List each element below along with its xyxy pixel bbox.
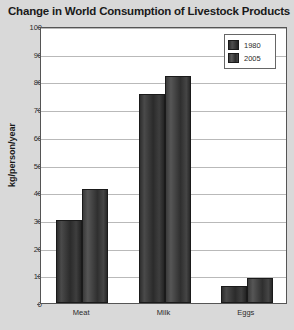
bar-chart: Change in World Consumption of Livestock…: [0, 0, 294, 330]
legend-item-1980: 1980: [228, 39, 272, 51]
bar-milk-1980: [139, 94, 165, 303]
legend-label-2005: 2005: [244, 54, 261, 63]
bar-eggs-2005: [247, 278, 273, 303]
legend-swatch-2005: [228, 53, 239, 63]
x-tick-label-eggs: Eggs: [237, 308, 254, 317]
y-tick-mark: [37, 304, 40, 305]
gridline: [41, 28, 286, 29]
bar-eggs-1980: [221, 286, 247, 303]
bar-meat-1980: [56, 220, 82, 303]
legend-swatch-1980: [228, 40, 239, 50]
legend-label-1980: 1980: [244, 41, 261, 50]
x-tick-label-meat: Meat: [73, 308, 90, 317]
chart-title: Change in World Consumption of Livestock…: [8, 5, 290, 17]
gridline: [41, 83, 286, 84]
legend-item-2005: 2005: [228, 52, 272, 64]
bar-meat-2005: [82, 189, 108, 303]
bar-milk-2005: [165, 76, 191, 303]
x-tick-label-milk: Milk: [157, 308, 170, 317]
chart-legend: 19802005: [224, 34, 276, 69]
